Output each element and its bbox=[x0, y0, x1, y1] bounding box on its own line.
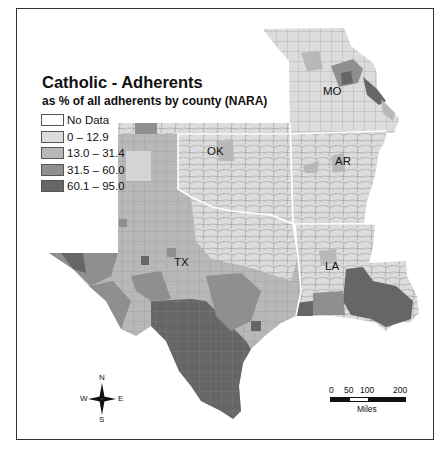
legend-label: 31.5 – 60.0 bbox=[67, 164, 125, 176]
state-arkansas bbox=[290, 131, 387, 224]
scale-tick-100: 100 bbox=[360, 385, 374, 395]
legend-swatch bbox=[41, 180, 64, 192]
state-label-mo: MO bbox=[323, 85, 342, 97]
legend-swatch bbox=[41, 147, 64, 159]
state-label-ok: OK bbox=[207, 145, 224, 157]
legend-swatch bbox=[41, 114, 64, 126]
legend-label: 0 – 12.9 bbox=[67, 131, 109, 143]
legend-item-31.5-60: 31.5 – 60.0 bbox=[41, 162, 125, 179]
legend-swatch bbox=[41, 164, 64, 176]
scale-bar-graphic bbox=[330, 397, 406, 402]
map-subtitle: as % of all adherents by county (NARA) bbox=[42, 94, 267, 108]
legend-item-60.1-95: 60.1 – 95.0 bbox=[41, 178, 125, 195]
legend-item-0-12.9: 0 – 12.9 bbox=[41, 129, 125, 146]
map-title: Catholic - Adherents bbox=[42, 73, 203, 92]
scale-units: Miles bbox=[357, 404, 377, 414]
map-frame: Catholic - Adherents as % of all adheren… bbox=[16, 8, 434, 440]
state-missouri bbox=[263, 28, 399, 134]
compass-w: W bbox=[80, 394, 88, 403]
state-label-tx: TX bbox=[174, 256, 189, 268]
compass-e: E bbox=[118, 394, 123, 403]
state-label-la: LA bbox=[325, 260, 339, 272]
state-louisiana bbox=[296, 224, 419, 331]
legend-item-no-data: No Data bbox=[41, 112, 125, 129]
legend-swatch bbox=[41, 131, 64, 143]
compass-s: S bbox=[99, 415, 104, 424]
compass-n: N bbox=[99, 373, 105, 382]
legend-label: 60.1 – 95.0 bbox=[67, 180, 125, 192]
scale-tick-0: 0 bbox=[329, 385, 334, 395]
state-label-ar: AR bbox=[335, 155, 351, 167]
scale-bar: 0 50 100 200 Miles bbox=[329, 385, 409, 419]
legend-item-13-31.4: 13.0 – 31.4 bbox=[41, 145, 125, 162]
scale-tick-50: 50 bbox=[344, 385, 353, 395]
legend: No Data 0 – 12.9 13.0 – 31.4 31.5 – 60.0… bbox=[41, 112, 125, 195]
legend-label: 13.0 – 31.4 bbox=[67, 147, 125, 159]
scale-tick-200: 200 bbox=[393, 385, 407, 395]
compass-rose: N S W E bbox=[80, 373, 124, 425]
legend-label: No Data bbox=[67, 114, 109, 126]
